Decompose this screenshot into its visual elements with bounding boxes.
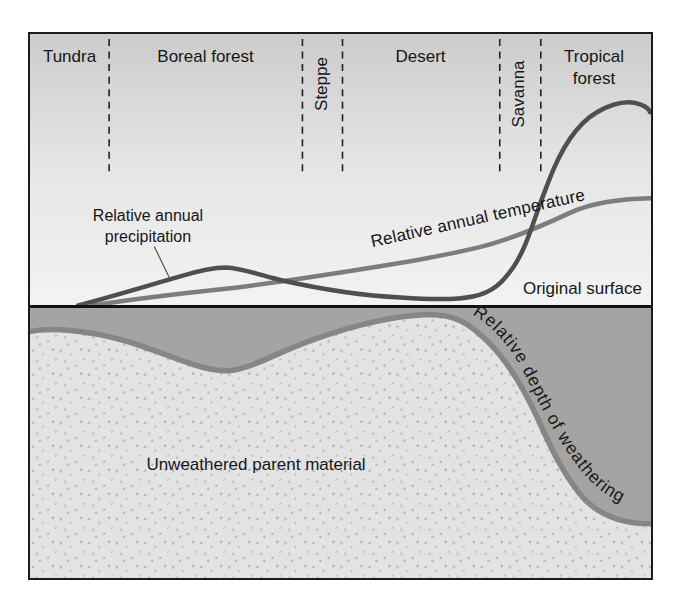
precipitation-label-line1: Relative annual <box>68 205 228 226</box>
zone-label-tropical-forest: Tropical forest <box>554 46 634 91</box>
zone-label-tundra: Tundra <box>30 46 109 68</box>
precipitation-label-line2: precipitation <box>68 226 228 247</box>
zone-label-desert: Desert <box>342 46 499 68</box>
diagram-canvas: Relative depth of weathering <box>30 34 651 578</box>
figure-page: Relative depth of weathering Tundra Bore… <box>0 0 674 592</box>
zone-label-steppe: Steppe <box>311 57 333 111</box>
original-surface-label: Original surface <box>523 278 642 300</box>
zone-label-savanna: Savanna <box>508 60 530 127</box>
unweathered-parent-material-label: Unweathered parent material <box>146 454 365 476</box>
precipitation-label: Relative annual precipitation <box>68 205 228 247</box>
weathering-diagram: Relative depth of weathering Tundra Bore… <box>28 32 653 580</box>
zone-label-boreal-forest: Boreal forest <box>109 46 302 68</box>
